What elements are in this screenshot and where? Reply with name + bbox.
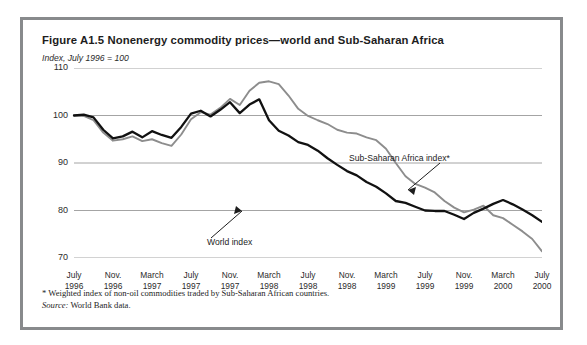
chart-series-line xyxy=(74,81,542,251)
x-axis-tick-month: July xyxy=(533,270,552,281)
annotation-ssa-index: Sub-Saharan Africa index* xyxy=(349,153,450,163)
chart-plot-area: 708090100110 xyxy=(42,68,542,258)
y-axis-tick-label: 110 xyxy=(42,62,68,72)
x-axis-tick-year: 1999 xyxy=(374,281,397,292)
source-label: Source: xyxy=(42,300,68,310)
chart-series-line xyxy=(74,99,542,222)
x-axis-tick-month: Nov. xyxy=(455,270,474,281)
y-axis-tick-label: 100 xyxy=(42,110,68,120)
figure-page: Figure A1.5 Nonenergy commodity prices—w… xyxy=(0,0,587,345)
y-axis-tick-label: 90 xyxy=(42,157,68,167)
x-axis-tick-label: July2000 xyxy=(533,270,552,292)
x-axis-tick-year: 2000 xyxy=(533,281,552,292)
x-axis-tick-year: 1998 xyxy=(338,281,357,292)
x-axis-tick-month: July xyxy=(182,270,201,281)
x-axis-tick-month: March xyxy=(140,270,163,281)
x-axis-tick-month: July xyxy=(416,270,435,281)
x-axis-tick-month: July xyxy=(65,270,84,281)
source-text: World Bank data. xyxy=(68,300,130,310)
annotation-world-index: World index xyxy=(207,237,252,247)
x-axis-tick-month: March xyxy=(257,270,280,281)
x-axis-tick-month: March xyxy=(491,270,514,281)
y-axis-tick-label: 80 xyxy=(42,205,68,215)
chart-series-group xyxy=(74,81,542,251)
figure-footnote: * Weighted index of non-oil commodities … xyxy=(42,288,329,298)
line-chart-svg xyxy=(42,68,542,258)
figure-frame: Figure A1.5 Nonenergy commodity prices—w… xyxy=(20,17,563,330)
x-axis-tick-month: Nov. xyxy=(338,270,357,281)
x-axis-tick-year: 1999 xyxy=(416,281,435,292)
x-axis-tick-label: Nov.1998 xyxy=(338,270,357,292)
chart-annotation-arrows xyxy=(211,163,440,238)
x-axis-tick-label: March2000 xyxy=(491,270,514,292)
x-axis-tick-label: March1999 xyxy=(374,270,397,292)
page-title: Figure A1.5 Nonenergy commodity prices—w… xyxy=(42,34,444,46)
x-axis-tick-month: July xyxy=(299,270,318,281)
x-axis-tick-month: Nov. xyxy=(104,270,123,281)
chart-gridlines xyxy=(74,68,542,258)
figure-source: Source: World Bank data. xyxy=(42,300,131,310)
x-axis-tick-month: Nov. xyxy=(221,270,240,281)
x-axis-tick-year: 1999 xyxy=(455,281,474,292)
y-axis-tick-label: 70 xyxy=(42,252,68,262)
x-axis-tick-label: July1999 xyxy=(416,270,435,292)
x-axis-tick-month: March xyxy=(374,270,397,281)
x-axis-tick-label: Nov.1999 xyxy=(455,270,474,292)
figure-inner: Figure A1.5 Nonenergy commodity prices—w… xyxy=(23,20,560,327)
x-axis-tick-year: 2000 xyxy=(491,281,514,292)
